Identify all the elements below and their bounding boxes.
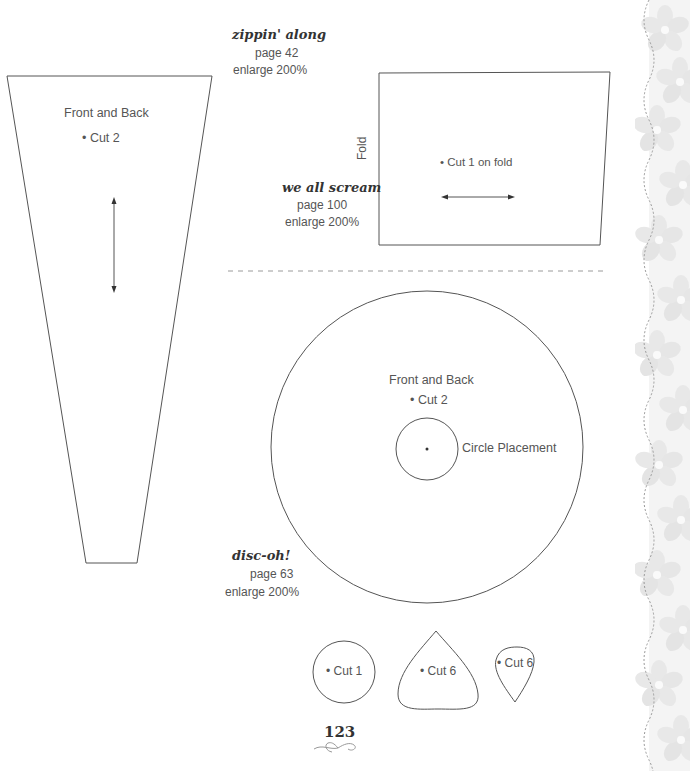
page-number: 123 bbox=[324, 723, 355, 741]
floral-border-decoration bbox=[635, 0, 690, 771]
bullet: • bbox=[410, 393, 414, 407]
cut-instruction: • Cut 1 bbox=[326, 664, 362, 678]
zippin-along-front-back-piece bbox=[7, 76, 212, 563]
cut-count: Cut 6 bbox=[428, 664, 457, 678]
bullet: • bbox=[326, 664, 330, 678]
bullet: • bbox=[497, 656, 501, 670]
cut-instruction: • Cut 6 bbox=[497, 656, 533, 670]
circle-placement-label: Circle Placement bbox=[462, 441, 556, 455]
enlarge-instruction: enlarge 200% bbox=[285, 215, 359, 229]
page-reference: page 63 bbox=[250, 567, 293, 581]
cut-instruction: • Cut 6 bbox=[420, 664, 456, 678]
cut-instruction: • Cut 2 bbox=[410, 393, 448, 407]
project-title-we-all-scream: we all scream bbox=[282, 180, 381, 195]
cut-instruction: • Cut 2 bbox=[82, 131, 120, 145]
fold-label: Fold bbox=[355, 137, 369, 160]
enlarge-instruction: enlarge 200% bbox=[225, 585, 299, 599]
page-reference: page 100 bbox=[297, 198, 347, 212]
cut-instruction: • Cut 1 on fold bbox=[440, 156, 512, 168]
enlarge-instruction: enlarge 200% bbox=[233, 63, 307, 77]
bullet: • bbox=[440, 156, 444, 168]
project-title-zippin-along: zippin' along bbox=[232, 27, 326, 42]
grainline-arrow-vertical bbox=[112, 197, 117, 293]
piece-name: Front and Back bbox=[389, 373, 474, 387]
cut-count: Cut 1 bbox=[334, 664, 363, 678]
grainline-arrow-horizontal bbox=[441, 195, 515, 200]
project-title-disc-oh: disc-oh! bbox=[232, 548, 291, 563]
page-flourish bbox=[314, 743, 355, 752]
piece-name: Front and Back bbox=[64, 106, 149, 120]
center-dot bbox=[426, 448, 429, 451]
cut-count: Cut 1 on fold bbox=[447, 156, 512, 168]
cut-count: Cut 6 bbox=[505, 656, 534, 670]
page-reference: page 42 bbox=[255, 46, 298, 60]
cut-count: Cut 2 bbox=[90, 131, 120, 145]
cut-count: Cut 2 bbox=[418, 393, 448, 407]
bullet: • bbox=[82, 131, 86, 145]
bullet: • bbox=[420, 664, 424, 678]
